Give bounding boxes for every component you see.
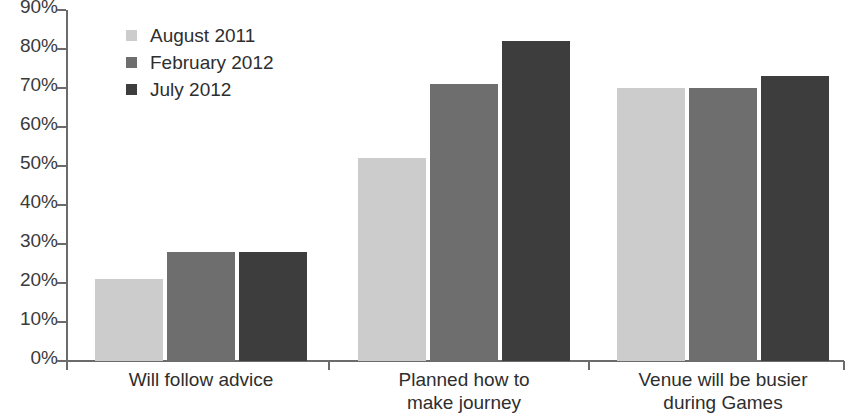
y-axis-tick-label: 40%: [20, 192, 58, 211]
legend-item-label: February 2012: [150, 53, 274, 72]
legend-swatch-icon: [126, 30, 137, 41]
y-axis-tick-label: 80%: [20, 36, 58, 55]
y-axis-tick-mark: [57, 321, 66, 323]
y-axis-tick-label: 30%: [20, 231, 58, 250]
bar: [358, 158, 426, 361]
y-axis-tick-label: 0%: [31, 348, 58, 367]
y-axis-tick-label: 90%: [20, 0, 58, 16]
bar: [689, 88, 757, 361]
legend-item: August 2011: [126, 22, 274, 49]
y-axis-line: [66, 10, 68, 362]
legend-item: July 2012: [126, 76, 274, 103]
legend-item-label: July 2012: [150, 80, 231, 99]
y-axis-tick-mark: [57, 48, 66, 50]
legend-item: February 2012: [126, 49, 274, 76]
bar: [502, 41, 570, 361]
bar: [239, 252, 307, 361]
y-axis-tick-label: 50%: [20, 153, 58, 172]
bar: [761, 76, 829, 361]
y-axis-tick-mark: [57, 126, 66, 128]
y-axis-tick-mark: [57, 9, 66, 11]
legend-item-label: August 2011: [150, 26, 255, 45]
legend-swatch-icon: [126, 84, 137, 95]
bar: [167, 252, 235, 361]
legend-swatch-icon: [126, 57, 137, 68]
bar-chart: 90%80%70%60%50%40%30%20%10%0% Will follo…: [0, 0, 846, 414]
legend: August 2011February 2012July 2012: [126, 22, 274, 103]
bar: [95, 279, 163, 361]
y-axis-tick-mark: [57, 282, 66, 284]
y-axis-tick-mark: [57, 360, 66, 362]
x-axis-category-label: Venue will be busier during Games: [573, 368, 846, 414]
y-axis-tick-label: 20%: [20, 270, 58, 289]
x-axis-category-label: Planned how to make journey: [314, 368, 614, 414]
y-axis-tick-mark: [57, 87, 66, 89]
y-axis-tick-mark: [57, 165, 66, 167]
x-axis-category-label: Will follow advice: [51, 368, 351, 391]
y-axis-tick-label: 70%: [20, 75, 58, 94]
y-axis-tick-mark: [57, 243, 66, 245]
bar: [617, 88, 685, 361]
bar: [430, 84, 498, 361]
y-axis-tick-label: 10%: [20, 309, 58, 328]
y-axis-tick-mark: [57, 204, 66, 206]
y-axis-tick-label: 60%: [20, 114, 58, 133]
